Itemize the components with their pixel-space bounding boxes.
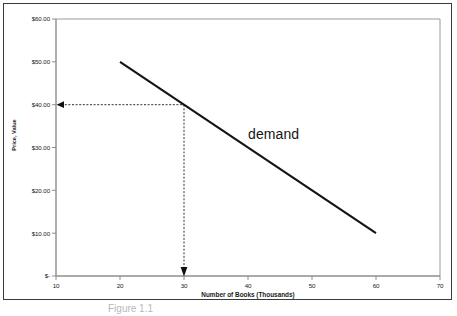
y-tick-label-60: $60.00: [14, 15, 50, 22]
x-axis-title: Number of Books (Thousands): [56, 291, 440, 298]
x-tick-label-70: 70: [428, 282, 452, 289]
y-tick-label-50: $50.00: [14, 58, 50, 65]
figure-container: $60.00 $50.00 $40.00 $30.00 $20.00 $10.0…: [0, 0, 457, 316]
y-axis-title: Price, Value: [11, 105, 17, 165]
x-tick-label-60: 60: [364, 282, 388, 289]
y-tick-label-20: $20.00: [14, 187, 50, 194]
x-tick-label-30: 30: [172, 282, 196, 289]
y-tick-label-10: $10.00: [14, 230, 50, 237]
x-tick-label-10: 10: [44, 282, 68, 289]
figure-caption: Figure 1.1: [108, 303, 153, 315]
demand-curve-label: demand: [248, 126, 299, 142]
y-tick-label-0: $-: [14, 272, 50, 279]
y-tick-label-40: $40.00: [14, 101, 50, 108]
x-tick-label-50: 50: [300, 282, 324, 289]
y-tick-label-30: $30.00: [14, 144, 50, 151]
x-tick-label-20: 20: [108, 282, 132, 289]
x-tick-label-40: 40: [236, 282, 260, 289]
chart-plot-svg: [0, 0, 457, 316]
